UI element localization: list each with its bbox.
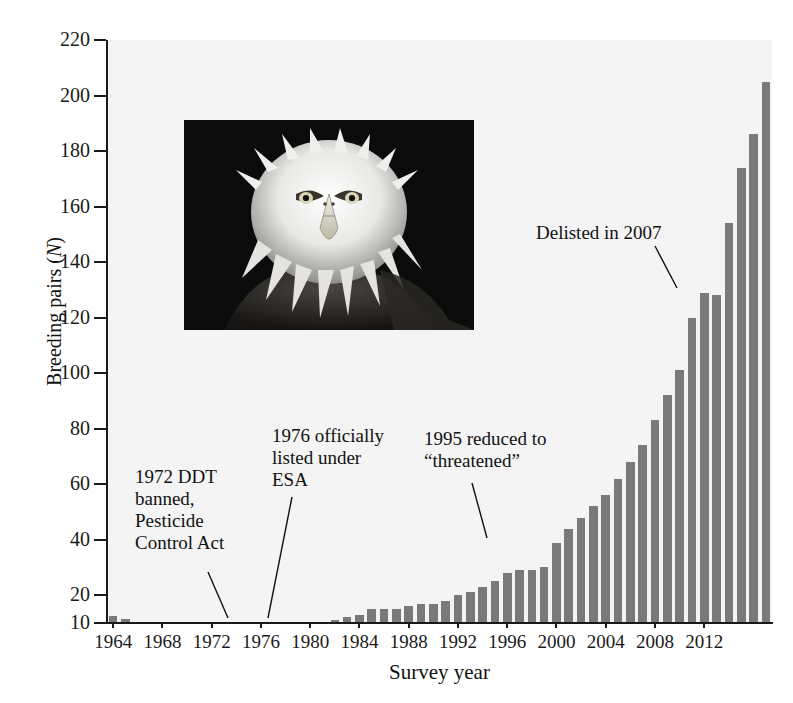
chart-figure: 1020406080100120140160180200220 19641968… xyxy=(0,0,793,703)
annotation-leader-delisted xyxy=(0,0,793,703)
